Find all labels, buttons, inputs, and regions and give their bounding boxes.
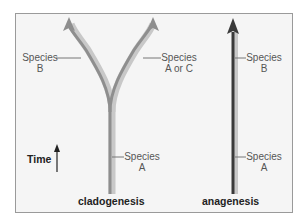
evolution-diagram bbox=[0, 0, 307, 222]
anagenesis-line bbox=[227, 18, 239, 194]
label-species-b-clado: Species B bbox=[22, 52, 58, 74]
cladogenesis-title: cladogenesis bbox=[78, 195, 145, 207]
label-species-b-ana: Species B bbox=[244, 52, 284, 74]
label-species-a-or-c: Species A or C bbox=[159, 52, 199, 74]
label-species-a-clado: Species A bbox=[122, 151, 162, 173]
anagenesis-title: anagenesis bbox=[202, 195, 259, 207]
time-arrow-icon bbox=[54, 144, 60, 172]
label-species-a-ana: Species A bbox=[244, 151, 284, 173]
time-label: Time bbox=[27, 153, 51, 165]
arrowhead-anagenesis-icon bbox=[227, 18, 239, 34]
